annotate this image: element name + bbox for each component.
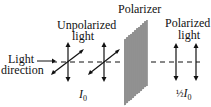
intensity-out-label: ½I0 [176, 87, 192, 102]
polarized-arrow-1 [174, 43, 179, 81]
light-direction-label-2: direction [1, 64, 44, 76]
intensity-in-label: I0 [79, 88, 87, 103]
polarized-label-2: light [178, 29, 200, 41]
polarizer-label: Polarizer [118, 3, 161, 15]
unpolarized-label-2: light [72, 30, 94, 42]
polarizer-sheet [124, 20, 147, 106]
